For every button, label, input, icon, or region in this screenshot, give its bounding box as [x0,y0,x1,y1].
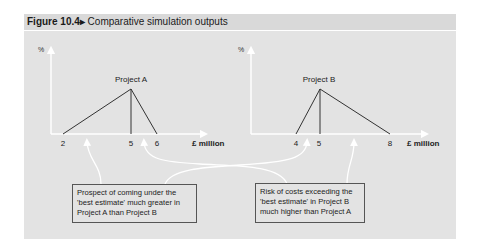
left-chart-triangle [63,89,157,134]
annotation-box-project-b: Risk of costs exceeding the 'best estima… [255,183,365,223]
right-chart-axes [251,50,425,134]
right-tick-5: 5 [317,139,321,148]
right-y-axis-label: % [238,46,244,53]
right-tick-8: 8 [388,139,392,148]
left-chart-axes [51,50,204,134]
right-project-label: Project B [303,75,335,84]
left-tick-5: 5 [129,139,133,148]
left-tick-2: 2 [61,139,65,148]
left-tick-6: 6 [155,139,159,148]
right-tick-4: 4 [294,139,298,148]
left-project-label: Project A [115,75,147,84]
annotation-arrows [87,142,354,184]
left-y-axis-label: % [38,46,44,53]
annotation-box-project-a: Prospect of coming under the 'best estim… [72,184,197,223]
left-x-axis-unit: £ million [192,139,224,148]
right-chart-triangle [296,89,390,134]
right-x-axis-unit: £ million [407,139,439,148]
